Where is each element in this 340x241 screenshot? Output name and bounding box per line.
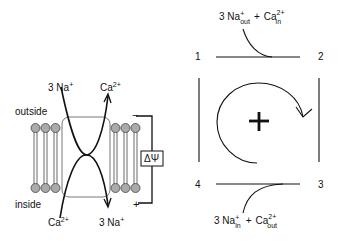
plus-sign: + (133, 198, 139, 210)
corner-3: 3 (318, 179, 324, 190)
top-branch-curve (243, 29, 272, 57)
corner-4: 4 (195, 179, 201, 190)
ion-top-left: 3 Na+ (48, 81, 73, 93)
bottom-branch-curve (243, 184, 283, 213)
top-reaction-label: 3 Na+out+Ca2+in (219, 9, 285, 25)
corner-1: 1 (195, 51, 201, 62)
corner-2: 2 (318, 51, 324, 62)
lipid-bilayer-right (111, 124, 140, 193)
lipid-bilayer-left (31, 124, 60, 193)
center-plus (249, 112, 269, 131)
minus-sign: − (132, 109, 138, 121)
bottom-reaction-label: 3 Na+in+Ca2+out (214, 213, 277, 229)
ion-bottom-right: 3 Na+ (99, 216, 124, 228)
ion-top-right: Ca2+ (100, 81, 121, 93)
ion-bottom-left: Ca2+ (48, 216, 69, 228)
potential-label: ΔΨ (144, 153, 159, 164)
diagram-canvas: outside inside 3 Na+ Ca2+ Ca2+ 3 Na+ ΔΨ … (0, 0, 340, 241)
inside-label: inside (15, 199, 42, 210)
outside-label: outside (15, 106, 48, 117)
cycle-arrowhead (296, 107, 312, 117)
